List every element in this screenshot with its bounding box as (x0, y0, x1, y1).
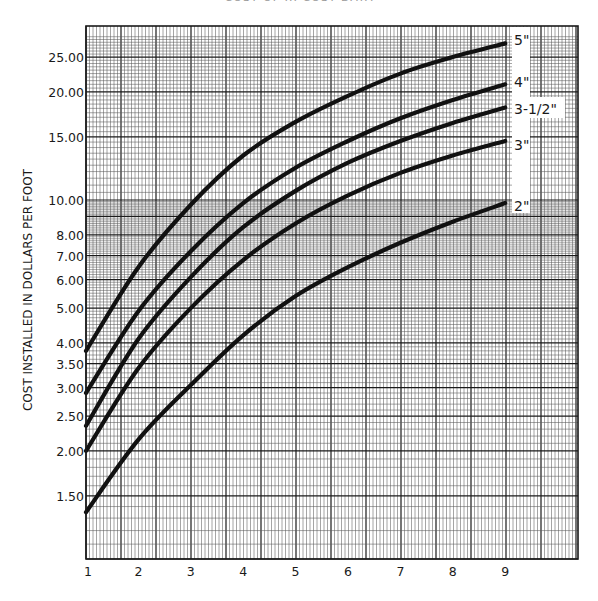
y-tick-label: 3.00 (56, 381, 84, 396)
y-tick-label: 7.00 (56, 249, 84, 264)
label-strip (512, 27, 530, 213)
y-tick-label: 6.00 (56, 273, 84, 288)
y-tick-label: 1.50 (56, 489, 84, 504)
x-tick-label: 7 (396, 564, 404, 579)
y-tick-label: 15.00 (48, 130, 84, 145)
y-tick-label: 8.00 (56, 228, 84, 243)
x-tick-label: 6 (344, 564, 352, 579)
y-tick-label: 5.00 (56, 301, 84, 316)
y-tick-label: 4.00 (56, 336, 84, 351)
x-tick-label: 1 (84, 564, 92, 579)
x-tick-label: 2 (134, 564, 142, 579)
x-tick-label: 4 (239, 564, 247, 579)
y-tick-label: 20.00 (48, 85, 84, 100)
curve-label: 3" (514, 137, 529, 153)
curve-label: 2" (514, 198, 529, 214)
curve-label: 3-1/2" (514, 101, 557, 117)
y-tick-label: 10.00 (48, 193, 84, 208)
curve-label: 5" (514, 32, 529, 48)
x-tick-label: 9 (501, 564, 509, 579)
x-axis-ticks: 123456789 (84, 564, 509, 579)
y-tick-label: 2.50 (56, 409, 84, 424)
x-tick-label: 5 (292, 564, 300, 579)
y-axis-ticks: 1.502.002.503.003.504.005.006.007.008.00… (48, 50, 84, 504)
y-tick-label: 3.50 (56, 357, 84, 372)
y-tick-label: 25.00 (48, 50, 84, 65)
x-tick-label: 3 (187, 564, 195, 579)
chart: 1.502.002.503.003.504.005.006.007.008.00… (0, 0, 598, 601)
curve-label: 4" (514, 74, 529, 90)
y-tick-label: 2.00 (56, 444, 84, 459)
x-tick-label: 8 (449, 564, 457, 579)
